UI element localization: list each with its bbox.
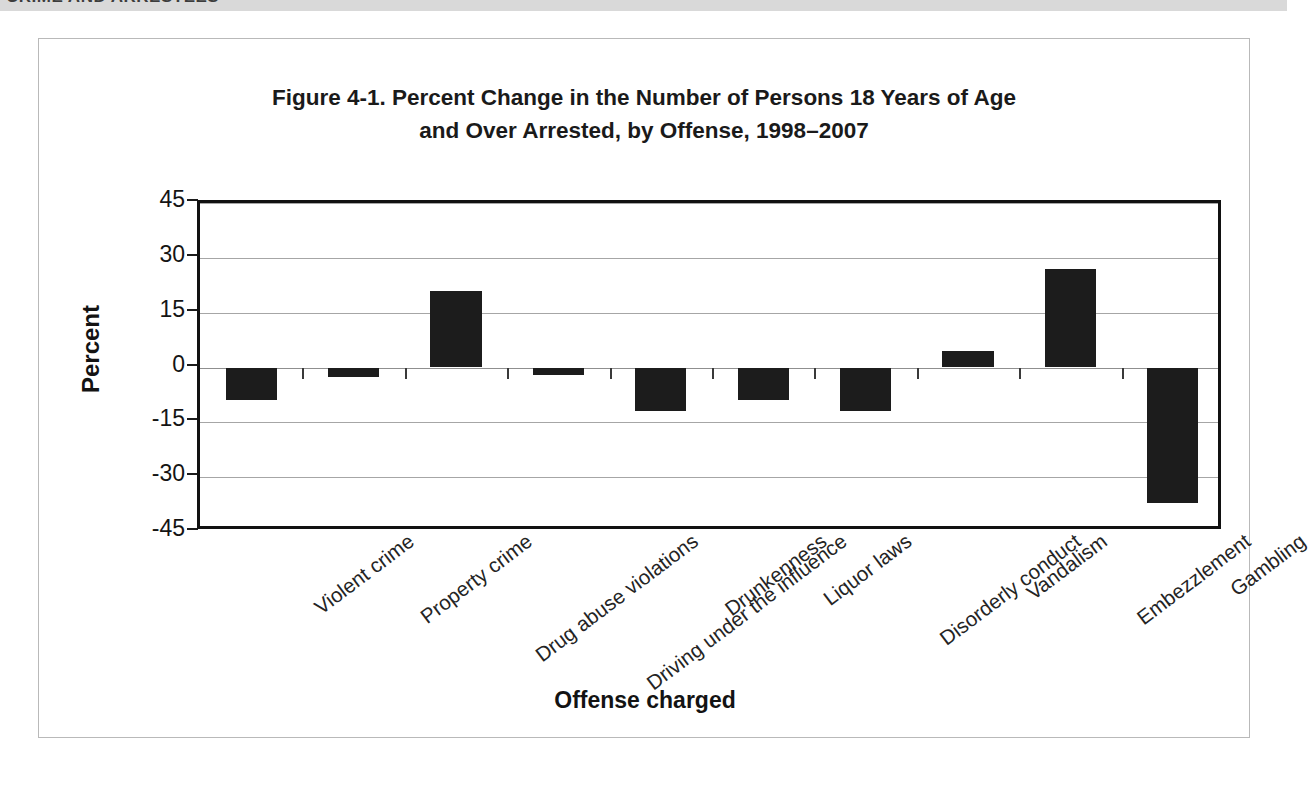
bar <box>635 368 686 412</box>
y-axis-tick-label: -30 <box>119 460 185 487</box>
x-axis-title: Offense charged <box>39 687 1251 714</box>
y-axis-tick-label: 30 <box>119 241 185 268</box>
bar <box>533 368 584 375</box>
bar <box>738 368 789 401</box>
bar <box>942 351 993 367</box>
x-axis-category-labels: Violent crimeProperty crimeDrug abuse vi… <box>197 529 1221 699</box>
gridline <box>200 203 1218 204</box>
y-axis-tick-label: -45 <box>119 515 185 542</box>
page-running-header-text: CRIME AND ARRESTEES <box>6 0 219 7</box>
x-axis-category-label: Drug abuse violations <box>531 529 703 667</box>
y-axis-tick-labels: 4530150-15-30-45 <box>109 200 185 529</box>
chart: Percent 4530150-15-30-45 Violent crimePr… <box>39 39 1251 739</box>
x-axis-tick-mark <box>1122 368 1124 379</box>
x-axis-tick-mark <box>814 368 816 379</box>
bar <box>328 368 379 377</box>
page-running-header: CRIME AND ARRESTEES <box>0 0 1287 11</box>
bar <box>226 368 277 401</box>
x-axis-tick-mark <box>712 368 714 379</box>
bar <box>1045 269 1096 368</box>
x-axis-category-label: Disorderly conduct <box>935 529 1085 650</box>
x-axis-tick-mark <box>405 368 407 379</box>
bar <box>430 291 481 368</box>
y-axis-tick-label: 15 <box>119 296 185 323</box>
x-axis-tick-mark <box>1019 368 1021 379</box>
figure-container: Figure 4-1. Percent Change in the Number… <box>38 38 1250 738</box>
y-axis-tick-label: -15 <box>119 405 185 432</box>
bar <box>1147 368 1198 503</box>
y-axis-tick-label: 0 <box>119 351 185 378</box>
x-axis-tick-mark <box>610 368 612 379</box>
plot-area <box>197 200 1221 529</box>
gridline <box>200 422 1218 423</box>
x-axis-category-label: Violent crime <box>310 529 419 619</box>
gridline <box>200 477 1218 478</box>
x-axis-category-label: Property crime <box>415 529 536 628</box>
y-axis-title: Percent <box>77 269 105 429</box>
gridline <box>200 258 1218 259</box>
x-axis-tick-mark <box>507 368 509 379</box>
bar <box>840 368 891 412</box>
y-axis-tick-label: 45 <box>119 186 185 213</box>
x-axis-tick-mark <box>302 368 304 379</box>
x-axis-tick-mark <box>917 368 919 379</box>
